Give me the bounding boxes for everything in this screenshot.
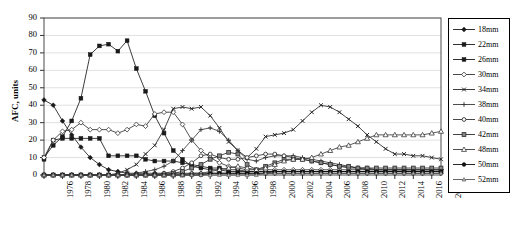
data-point-square: [153, 159, 157, 163]
data-point-x-cross: [208, 114, 212, 118]
data-point-square: [171, 149, 175, 153]
legend-swatch-40mm: [452, 113, 476, 126]
data-point-diamond-open: [106, 127, 111, 132]
x-tick-label: 2000: [287, 181, 297, 198]
data-point-x-cross: [338, 110, 342, 114]
y-tick-label: 90: [17, 12, 37, 22]
legend-item-22mm[interactable]: 22mm: [449, 37, 509, 52]
data-point-square: [51, 143, 55, 147]
data-point-x-cross: [291, 128, 295, 132]
data-point-plus: [254, 159, 259, 164]
x-tick-label: 1994: [231, 181, 241, 198]
legend-item-34mm[interactable]: 34mm: [449, 82, 509, 97]
data-point-square: [125, 154, 129, 158]
legend-label: 48mm: [478, 145, 498, 154]
data-point-x-cross: [162, 128, 166, 132]
chart-container: AFC, units 01020304050607080901976197819…: [0, 0, 517, 228]
data-point-diamond: [462, 27, 467, 32]
data-point-circle-open: [190, 161, 194, 165]
y-tick-label: 10: [17, 152, 37, 162]
y-tick-label: 20: [17, 134, 37, 144]
data-point-circle-open: [254, 154, 258, 158]
legend-item-50mm[interactable]: 50mm: [449, 157, 509, 172]
legend-label: 50mm: [478, 160, 498, 169]
legend-item-38mm[interactable]: 38mm: [449, 97, 509, 112]
data-point-square: [70, 136, 74, 140]
x-tick-label: 1976: [65, 181, 75, 198]
series-line-26mm: [44, 41, 441, 172]
data-point-x-cross: [356, 124, 360, 128]
series-26mm: [42, 39, 443, 174]
data-point-square-half: [384, 166, 388, 170]
data-point-square: [97, 136, 101, 140]
x-tick-label: 1980: [102, 181, 112, 198]
data-point-triangle-open: [439, 129, 444, 133]
data-point-x-cross: [134, 163, 138, 167]
data-point-square: [181, 161, 185, 165]
x-tick-label: 1990: [194, 181, 204, 198]
plot-frame: [44, 18, 441, 175]
x-tick-label: 2012: [397, 181, 407, 198]
data-point-diamond-open: [217, 160, 222, 165]
data-point-square-half: [421, 166, 425, 170]
data-point-square-half: [338, 164, 342, 168]
data-point-square: [134, 67, 138, 71]
x-tick-label: 2014: [416, 181, 426, 198]
legend-item-30mm[interactable]: 30mm: [449, 67, 509, 82]
data-point-plus: [462, 102, 467, 107]
data-point-square-half: [190, 166, 194, 170]
data-point-square: [462, 43, 466, 47]
data-point-square-half: [319, 161, 323, 165]
data-point-diamond: [42, 98, 47, 103]
data-point-square-half: [199, 163, 203, 167]
data-point-circle-open: [227, 157, 231, 161]
x-tick-label: 1996: [250, 181, 260, 198]
data-point-square: [116, 154, 120, 158]
legend-item-40mm[interactable]: 40mm: [449, 112, 509, 127]
data-point-square: [116, 49, 120, 53]
legend-item-26mm[interactable]: 26mm: [449, 52, 509, 67]
data-point-diamond: [106, 167, 111, 172]
legend-label: 34mm: [478, 85, 498, 94]
legend-item-52mm[interactable]: 52mm: [449, 172, 509, 187]
x-tick-label: 1992: [213, 181, 223, 198]
legend-label: 22mm: [478, 40, 498, 49]
legend-swatch-38mm: [452, 98, 476, 111]
data-point-square: [125, 39, 129, 43]
series-line-30mm: [44, 112, 441, 170]
x-tick-label: 1988: [176, 181, 186, 198]
data-point-diamond-open: [115, 131, 120, 136]
data-point-square-half: [365, 166, 369, 170]
data-point-square: [107, 42, 111, 46]
data-point-square: [144, 89, 148, 93]
legend-swatch-30mm: [452, 68, 476, 81]
legend-item-42mm[interactable]: 42mm: [449, 127, 509, 142]
data-point-diamond-open: [462, 72, 467, 77]
x-tick-label: 1984: [139, 181, 149, 198]
data-point-circle-open: [236, 157, 240, 161]
legend-item-18mm[interactable]: 18mm: [449, 22, 509, 37]
data-point-x-cross: [384, 147, 388, 151]
data-point-square-half: [347, 164, 351, 168]
data-point-square: [70, 119, 74, 123]
legend-swatch-34mm: [452, 83, 476, 96]
legend-label: 18mm: [478, 25, 498, 34]
x-tick-label: 1986: [157, 181, 167, 198]
series-30mm: [42, 110, 444, 172]
data-point-square: [88, 136, 92, 140]
data-point-square: [107, 154, 111, 158]
data-point-circle-open: [273, 152, 277, 156]
legend-label: 30mm: [478, 70, 498, 79]
data-point-plus: [208, 126, 213, 131]
data-point-square: [88, 53, 92, 57]
y-tick-label: 40: [17, 99, 37, 109]
data-point-x-cross: [153, 143, 157, 147]
legend-label: 40mm: [478, 115, 498, 124]
data-point-square-half: [462, 133, 466, 137]
data-point-x-cross: [347, 117, 351, 121]
data-point-circle: [462, 163, 466, 167]
series-line-18mm: [44, 100, 441, 173]
legend-item-48mm[interactable]: 48mm: [449, 142, 509, 157]
legend-label: 52mm: [478, 175, 498, 184]
data-point-circle-open: [245, 156, 249, 160]
